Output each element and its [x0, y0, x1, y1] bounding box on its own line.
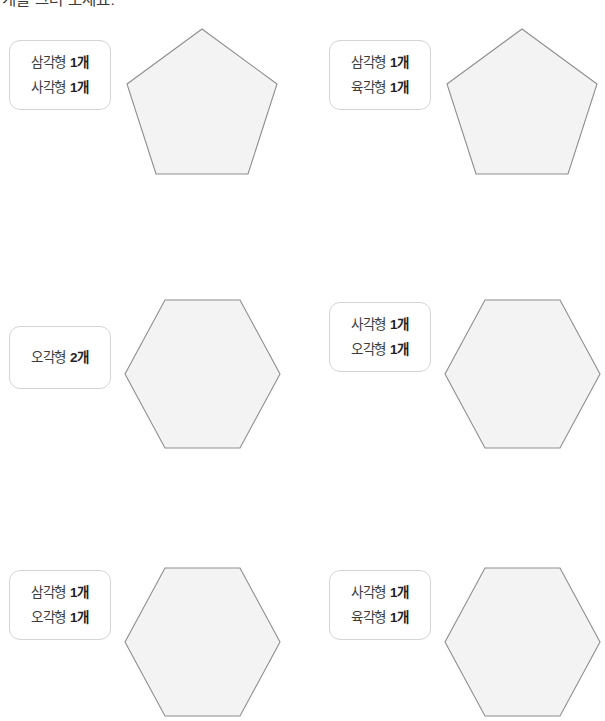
instruction-line: 개를 그려 보세요.: [0, 0, 605, 14]
shape-requirement-box[interactable]: 사각형 1개 오각형 1개: [329, 302, 431, 372]
requirement-line: 오각형 1개: [16, 605, 104, 630]
worksheet-cell: 사각형 1개 육각형 1개: [320, 550, 605, 721]
requirement-shape-name: 육각형: [351, 80, 387, 95]
requirement-shape-name: 사각형: [351, 317, 387, 332]
worksheet-cell: 삼각형 1개 사각형 1개: [0, 20, 302, 282]
shape-requirement-box[interactable]: 삼각형 1개 오각형 1개: [9, 570, 111, 640]
requirement-shape-name: 삼각형: [351, 55, 387, 70]
requirement-count: 1개: [70, 80, 89, 95]
requirement-count: 1개: [390, 342, 409, 357]
worksheet-cell: 사각형 1개 오각형 1개: [320, 282, 605, 544]
requirement-shape-name: 오각형: [31, 610, 67, 625]
hexagon-shape[interactable]: [120, 562, 285, 721]
worksheet-cell: 삼각형 1개 육각형 1개: [320, 20, 605, 282]
hexagon-shape[interactable]: [120, 294, 285, 454]
requirement-line: 육각형 1개: [336, 605, 424, 630]
shape-requirement-box[interactable]: 오각형 2개: [9, 326, 111, 389]
shape-requirement-box[interactable]: 삼각형 1개 육각형 1개: [329, 40, 431, 110]
requirement-shape-name: 삼각형: [31, 55, 67, 70]
worksheet-cell: 삼각형 1개 오각형 1개: [0, 550, 302, 721]
requirement-shape-name: 오각형: [351, 342, 387, 357]
worksheet-cell: 오각형 2개: [0, 282, 302, 544]
requirement-shape-name: 사각형: [351, 585, 387, 600]
requirement-line: 삼각형 1개: [16, 580, 104, 605]
requirement-line: 사각형 1개: [336, 312, 424, 337]
requirement-shape-name: 오각형: [31, 350, 67, 365]
requirement-line: 오각형 1개: [336, 337, 424, 362]
requirement-shape-name: 삼각형: [31, 585, 67, 600]
requirement-count: 2개: [70, 350, 89, 365]
requirement-count: 1개: [390, 80, 409, 95]
requirement-line: 삼각형 1개: [336, 50, 424, 75]
shape-requirement-box[interactable]: 삼각형 1개 사각형 1개: [9, 40, 111, 110]
requirement-line: 삼각형 1개: [16, 50, 104, 75]
pentagon-shape[interactable]: [122, 24, 282, 192]
requirement-line: 오각형 2개: [16, 345, 104, 370]
requirement-count: 1개: [70, 585, 89, 600]
hexagon-shape[interactable]: [440, 294, 605, 454]
requirement-line: 육각형 1개: [336, 75, 424, 100]
requirement-shape-name: 육각형: [351, 610, 387, 625]
requirement-count: 1개: [390, 55, 409, 70]
requirement-shape-name: 사각형: [31, 80, 67, 95]
shape-requirement-box[interactable]: 사각형 1개 육각형 1개: [329, 570, 431, 640]
requirement-count: 1개: [390, 585, 409, 600]
requirement-count: 1개: [70, 610, 89, 625]
requirement-count: 1개: [390, 610, 409, 625]
worksheet-grid: 삼각형 1개 사각형 1개 삼각형 1개 육각형 1개: [0, 14, 605, 698]
requirement-line: 사각형 1개: [16, 75, 104, 100]
pentagon-shape[interactable]: [442, 24, 602, 192]
instruction-text: 개를 그려 보세요.: [2, 0, 115, 9]
requirement-count: 1개: [70, 55, 89, 70]
requirement-line: 사각형 1개: [336, 580, 424, 605]
hexagon-shape[interactable]: [440, 562, 605, 721]
requirement-count: 1개: [390, 317, 409, 332]
